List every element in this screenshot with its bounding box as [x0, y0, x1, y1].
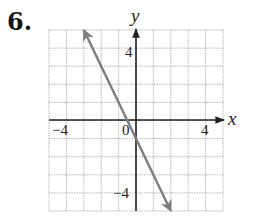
x-tick-label-4: 4 — [201, 122, 209, 138]
y-axis-label: y — [129, 5, 140, 26]
coordinate-graph: x y −4 0 4 4 −4 — [0, 0, 253, 216]
y-tick-label-4: 4 — [125, 44, 133, 60]
x-tick-label-0: 0 — [122, 122, 130, 138]
x-axis-label: x — [227, 108, 237, 129]
y-tick-label-neg4: −4 — [113, 185, 129, 201]
x-tick-label-neg4: −4 — [52, 122, 68, 138]
